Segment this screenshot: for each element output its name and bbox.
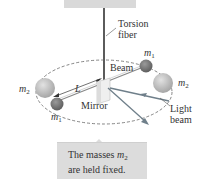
- torsion-fiber-label: Torsion fiber: [118, 18, 148, 40]
- beam-label: Beam: [110, 62, 133, 73]
- m2-left-label: m2: [19, 83, 30, 98]
- light-beam-reflected: [108, 88, 146, 122]
- small-mass-left: [51, 98, 64, 111]
- large-mass-left: [35, 78, 55, 98]
- m1-left-label: m1: [51, 111, 62, 126]
- caption-text: The masses m2 are held fixed.: [68, 149, 128, 176]
- large-mass-right: [153, 73, 173, 93]
- ceiling-support: [64, 0, 136, 8]
- length-label: L: [75, 83, 81, 94]
- m1-right-label: m1: [144, 47, 155, 62]
- torsion-fiber-leader: [106, 28, 116, 36]
- light-beam-label: Light beam: [170, 103, 192, 125]
- mirror-label: Mirror: [81, 100, 108, 111]
- m2-right-label: m2: [178, 77, 189, 92]
